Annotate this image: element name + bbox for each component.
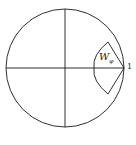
region-label: Wφ — [99, 52, 113, 64]
unit-disk-figure — [0, 0, 136, 145]
faint-caption-marks — [38, 137, 98, 143]
point-one-label: 1 — [127, 63, 132, 71]
